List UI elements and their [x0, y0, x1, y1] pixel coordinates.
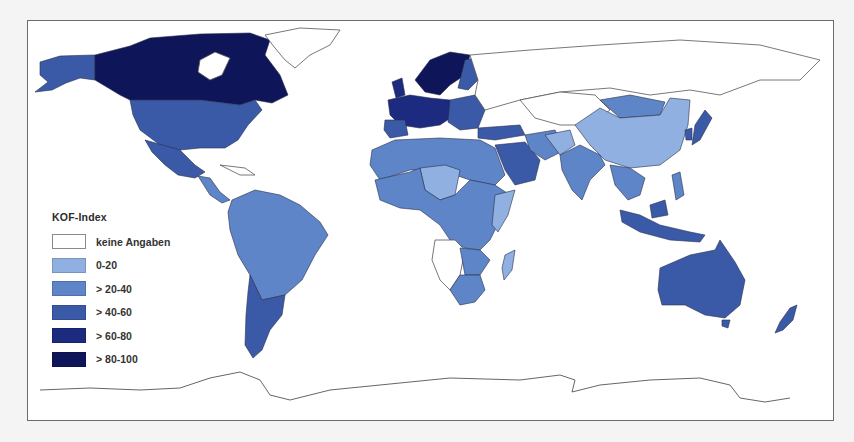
region-antarctica [40, 372, 790, 402]
legend-item-no-data: keine Angaben [52, 230, 170, 254]
region-japan [692, 110, 712, 145]
legend-label: keine Angaben [96, 236, 170, 248]
region-turkey [478, 125, 525, 140]
region-alaska [35, 55, 95, 92]
region-greenland [265, 28, 340, 68]
region-caribbean [220, 165, 255, 175]
legend-swatch [52, 328, 86, 343]
region-tasmania [722, 320, 730, 328]
legend-label: > 60-80 [96, 330, 132, 342]
region-horn-of-africa [492, 190, 515, 232]
legend-swatch [52, 305, 86, 320]
legend-item-0-20: 0-20 [52, 254, 170, 278]
region-philippines [672, 172, 684, 200]
region-southeast-africa [460, 248, 490, 275]
region-southeast-asia [610, 165, 645, 200]
legend-title: KOF-Index [52, 211, 170, 223]
region-central-america [198, 176, 230, 203]
legend-label: > 20-40 [96, 283, 132, 295]
legend-label: > 40-60 [96, 306, 132, 318]
region-iberia [384, 120, 408, 138]
legend-item-20-40: > 20-40 [52, 277, 170, 301]
legend-swatch [52, 352, 86, 367]
legend-label: 0-20 [96, 259, 117, 271]
region-canada [95, 33, 288, 105]
legend-swatch [52, 258, 86, 273]
region-malaysia [650, 200, 668, 218]
region-madagascar [502, 250, 515, 280]
region-australia [658, 240, 745, 318]
region-uk-ireland [392, 78, 405, 98]
region-south-america [228, 190, 328, 300]
legend-item-40-60: > 40-60 [52, 301, 170, 325]
region-new-zealand [775, 305, 797, 333]
legend-swatch [52, 234, 86, 249]
legend-item-60-80: > 60-80 [52, 324, 170, 348]
legend-label: > 80-100 [96, 353, 138, 365]
legend: KOF-Index keine Angaben 0-20 > 20-40 > 4… [52, 211, 170, 371]
region-korea [685, 128, 692, 140]
legend-swatch [52, 281, 86, 296]
legend-item-80-100: > 80-100 [52, 348, 170, 372]
